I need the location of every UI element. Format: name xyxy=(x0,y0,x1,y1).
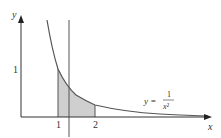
x-tick-1: 1 xyxy=(56,119,61,130)
y-axis-label: y xyxy=(11,9,17,20)
x-axis-arrow-icon xyxy=(204,114,212,120)
graph: y x 1 1 2 y = 1 x² xyxy=(0,0,221,138)
shaded-area xyxy=(58,69,95,117)
x-tick-2: 2 xyxy=(93,119,98,130)
x-axis-label: x xyxy=(207,121,213,132)
y-axis-arrow-icon xyxy=(18,15,24,23)
function-label-numerator: 1 xyxy=(167,90,171,99)
y-tick-1: 1 xyxy=(13,64,18,75)
function-label-lhs: y = xyxy=(143,96,156,106)
function-label-denominator: x² xyxy=(162,102,170,111)
